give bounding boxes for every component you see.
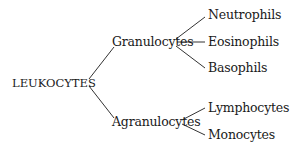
root-node-leukocytes: LEUKOCYTES — [12, 76, 96, 90]
connector-root-agranulocytes — [89, 86, 114, 118]
leaf-neutrophils: Neutrophils — [208, 8, 281, 22]
leaf-basophils: Basophils — [208, 61, 267, 75]
leukocyte-classification-diagram: LEUKOCYTES Granulocytes Agranulocytes Ne… — [0, 0, 290, 151]
leaf-eosinophils: Eosinophils — [208, 35, 279, 49]
leaf-lymphocytes: Lymphocytes — [208, 101, 289, 115]
connector-root-granulocytes — [89, 47, 114, 79]
leaf-monocytes: Monocytes — [208, 128, 275, 142]
node-agranulocytes: Agranulocytes — [112, 115, 200, 129]
connector-granulocytes-basophils — [176, 46, 205, 68]
node-granulocytes: Granulocytes — [112, 35, 194, 49]
